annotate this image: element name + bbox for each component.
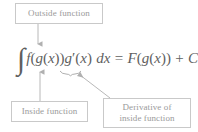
equation-x-3: x bbox=[154, 50, 161, 67]
equation-x-2: x bbox=[80, 50, 87, 67]
equation-paren-close-3: ) bbox=[87, 50, 92, 67]
callout-derivative-label-line2: inside function bbox=[119, 113, 174, 124]
callout-derivative-of-inside-function: Derivative of inside function bbox=[103, 98, 191, 128]
equation-plus: + bbox=[175, 50, 183, 67]
callout-inside-function: Inside function bbox=[11, 101, 88, 122]
equation-g-1: g bbox=[35, 50, 43, 67]
callout-outside-function-label: Outside function bbox=[28, 8, 90, 19]
callout-derivative-label-line1: Derivative of bbox=[122, 102, 171, 113]
equation-g-2: g bbox=[65, 50, 73, 67]
equation-C: C bbox=[188, 50, 198, 67]
callout-inside-function-label: Inside function bbox=[22, 106, 78, 117]
callout-outside-function: Outside function bbox=[15, 3, 103, 24]
equation-dx: dx bbox=[96, 50, 110, 67]
equation-F: F bbox=[128, 50, 137, 67]
equation-equals: = bbox=[115, 50, 123, 67]
equation-paren-close-4: ) bbox=[166, 50, 171, 67]
arrow-diagonal-to-g-prime bbox=[80, 75, 110, 98]
substitution-formula-figure: Outside function Inside function Derivat… bbox=[0, 0, 198, 132]
equation-x-1: x bbox=[48, 50, 55, 67]
equation-g-3: g bbox=[142, 50, 150, 67]
equation: ∫ f ( g ( x ) ) g ′ ( x ) dx = F ( g ( x… bbox=[0, 40, 198, 76]
